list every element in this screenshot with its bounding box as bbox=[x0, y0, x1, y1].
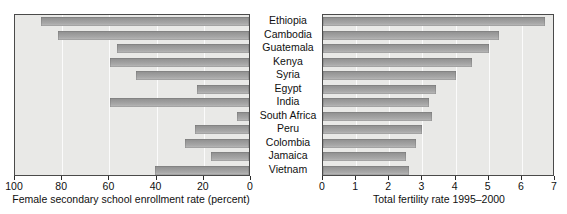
right-plot-area bbox=[322, 14, 554, 176]
gridline bbox=[522, 15, 523, 175]
left-panel: 100806040200 Female secondary school enr… bbox=[0, 0, 262, 214]
category-label-column: EthiopiaCambodiaGuatemalaKenyaSyriaEgypt… bbox=[255, 14, 321, 176]
axis-tick-label: 0 bbox=[230, 181, 270, 192]
axis-tick-label: 80 bbox=[41, 181, 81, 192]
bar bbox=[136, 71, 249, 80]
bar bbox=[117, 44, 249, 53]
left-axis-title: Female secondary school enrollment rate … bbox=[0, 193, 262, 205]
bar bbox=[323, 98, 429, 107]
axis-tick-label: 40 bbox=[136, 181, 176, 192]
axis-tick-label: 100 bbox=[0, 181, 34, 192]
bar bbox=[323, 125, 422, 134]
right-axis-title: Total fertility rate 1995–2000 bbox=[304, 193, 567, 205]
category-label-south-africa: South Africa bbox=[255, 110, 321, 121]
bar bbox=[323, 17, 545, 26]
category-label-syria: Syria bbox=[255, 69, 321, 80]
left-plot-area bbox=[14, 14, 250, 176]
bar bbox=[323, 166, 409, 175]
bar bbox=[211, 152, 249, 161]
bar bbox=[197, 85, 249, 94]
bar bbox=[323, 71, 456, 80]
bar bbox=[323, 152, 406, 161]
bar bbox=[110, 98, 249, 107]
right-panel: 01234567 Total fertility rate 1995–2000 bbox=[322, 0, 567, 214]
bar bbox=[323, 85, 436, 94]
bar bbox=[195, 125, 249, 134]
category-label-cambodia: Cambodia bbox=[255, 29, 321, 40]
bar bbox=[155, 166, 249, 175]
category-label-jamaica: Jamaica bbox=[255, 150, 321, 161]
axis-tick-label: 20 bbox=[183, 181, 223, 192]
category-label-ethiopia: Ethiopia bbox=[255, 15, 321, 26]
two-panel-bar-chart-figure: 100806040200 Female secondary school enr… bbox=[0, 0, 567, 214]
category-label-vietnam: Vietnam bbox=[255, 164, 321, 175]
bar bbox=[323, 58, 472, 67]
axis-tick-label: 60 bbox=[88, 181, 128, 192]
bar bbox=[110, 58, 249, 67]
category-label-kenya: Kenya bbox=[255, 56, 321, 67]
category-label-egypt: Egypt bbox=[255, 83, 321, 94]
category-label-peru: Peru bbox=[255, 123, 321, 134]
bar bbox=[58, 31, 249, 40]
axis-tick-label: 7 bbox=[534, 181, 567, 192]
category-label-guatemala: Guatemala bbox=[255, 42, 321, 53]
bar bbox=[237, 112, 249, 121]
bar bbox=[323, 112, 432, 121]
category-label-colombia: Colombia bbox=[255, 137, 321, 148]
bar bbox=[41, 17, 249, 26]
bar bbox=[323, 31, 499, 40]
bar bbox=[323, 139, 416, 148]
category-label-india: India bbox=[255, 96, 321, 107]
bar bbox=[185, 139, 249, 148]
bar bbox=[323, 44, 489, 53]
